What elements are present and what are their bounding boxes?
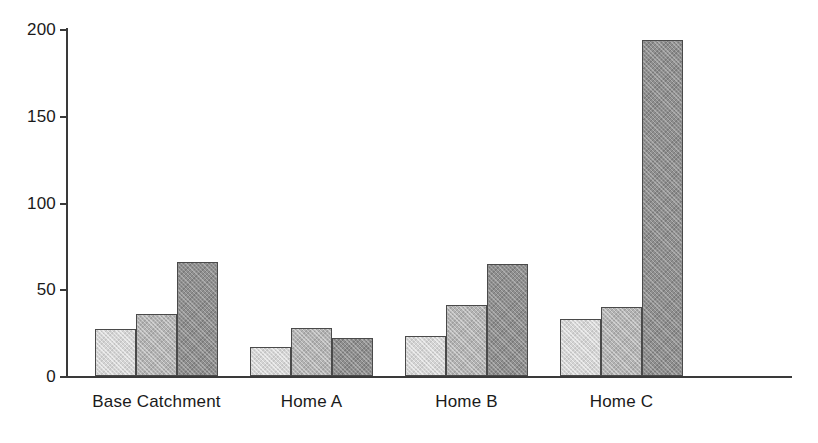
plot-area: 200 150 100 50 0 Base Catchment Home A H…: [0, 0, 818, 443]
bar-base-catchment-series-1: [95, 329, 136, 376]
x-tick-label-home-c: Home C: [512, 392, 732, 412]
bar-chart: 200 150 100 50 0 Base Catchment Home A H…: [0, 0, 818, 443]
bar-home-a-series-1: [250, 347, 291, 376]
bar-home-b-series-1: [405, 336, 446, 376]
bar-home-c-series-2: [601, 307, 642, 376]
bar-home-b-series-2: [446, 305, 487, 376]
y-tick-mark: [60, 29, 67, 31]
y-tick-mark: [60, 203, 67, 205]
y-tick-mark: [60, 116, 67, 118]
y-tick-mark: [60, 289, 67, 291]
bar-home-a-series-3: [332, 338, 373, 376]
y-tick-mark: [60, 376, 67, 378]
bar-base-catchment-series-2: [136, 314, 177, 376]
bar-home-a-series-2: [291, 328, 332, 376]
y-tick-label-200: 200: [6, 21, 56, 38]
y-tick-label-50: 50: [6, 281, 56, 298]
bar-home-c-series-1: [560, 319, 601, 376]
y-tick-label-150: 150: [6, 108, 56, 125]
y-tick-label-0: 0: [6, 368, 56, 385]
y-tick-label-100: 100: [6, 195, 56, 212]
x-axis-line: [66, 376, 792, 378]
bar-home-b-series-3: [487, 264, 528, 376]
bar-home-c-series-3: [642, 40, 683, 376]
bar-base-catchment-series-3: [177, 262, 218, 376]
